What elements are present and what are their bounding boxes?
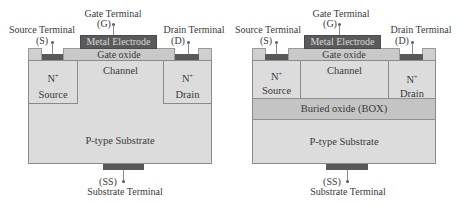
drain-terminal-label: Drain Terminal: [384, 24, 458, 35]
channel-label: Channel: [78, 64, 163, 77]
gate-terminal-label: Gate Terminal: [301, 8, 381, 19]
buried-oxide-layer: Buried oxide (BOX): [252, 98, 436, 120]
source-label: Source: [29, 88, 77, 101]
drain-lead-line: [188, 43, 189, 54]
source-doping-label: N+: [253, 68, 300, 83]
substrate-lead-line: [123, 170, 124, 180]
drain-symbol-label: (D): [168, 35, 188, 46]
source-label: Source: [253, 84, 300, 97]
substrate-terminal-label: Substrate Terminal: [304, 186, 392, 197]
drain-doping-label: N+: [164, 70, 211, 85]
substrate-terminal-dot-icon: [346, 180, 349, 183]
gate-lead-line: [113, 25, 114, 35]
source-region: N+ Source: [28, 60, 78, 104]
substrate-terminal-dot-icon: [122, 180, 125, 183]
drain-region: N+ Drain: [163, 60, 212, 104]
soi-mosfet-diagram: Gate Terminal (G) Source Terminal (S) Dr…: [232, 0, 464, 204]
drain-terminal-label: Drain Terminal: [158, 24, 230, 35]
source-region: N+ Source: [252, 60, 301, 99]
metal-electrode: Metal Electrode: [80, 35, 157, 49]
source-terminal-label: Source Terminal: [232, 24, 304, 35]
gate-lead-line: [339, 25, 340, 35]
drain-label: Drain: [164, 88, 211, 101]
drain-doping-label: N+: [389, 71, 435, 86]
channel-label: Channel: [301, 64, 388, 77]
gate-symbol-label: (G): [94, 18, 114, 29]
source-symbol-label: (S): [32, 35, 52, 46]
drain-lead-line: [412, 43, 413, 54]
source-lead-line: [52, 43, 53, 54]
drain-region: N+ Drain: [388, 60, 436, 99]
drain-symbol-label: (D): [392, 35, 412, 46]
substrate-terminal-label: Substrate Terminal: [82, 186, 168, 197]
substrate-lead-line: [347, 170, 348, 180]
substrate-label: P-type Substrate: [28, 134, 212, 147]
source-terminal-label: Source Terminal: [4, 24, 80, 35]
metal-electrode: Metal Electrode: [304, 35, 381, 49]
substrate-label: P-type Substrate: [252, 135, 436, 148]
source-lead-line: [276, 43, 277, 54]
source-doping-label: N+: [29, 70, 77, 85]
source-symbol-label: (S): [256, 35, 276, 46]
gate-symbol-label: (G): [320, 18, 340, 29]
bulk-mosfet-diagram: Gate Terminal (G) Source Terminal (S) Dr…: [0, 0, 232, 204]
